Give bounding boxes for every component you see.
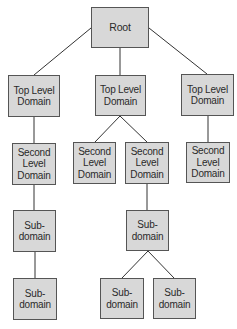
node-root: Root — [91, 7, 149, 48]
node-sub-left-2: Sub- domain — [13, 278, 57, 320]
node-sld-right: Second Level Domain — [186, 142, 230, 183]
node-sld-middle-right: Second Level Domain — [125, 142, 169, 184]
node-tld-left: Top Level Domain — [8, 75, 60, 117]
node-sub-middle: Sub- domain — [126, 210, 169, 251]
node-sub-middle-left: Sub- domain — [100, 278, 144, 319]
node-sub-left-1: Sub- domain — [13, 210, 56, 252]
dns-hierarchy-diagram: Root Top Level Domain Top Level Domain T… — [0, 0, 237, 329]
edge-sub-middle-sub-middle-left — [122, 251, 148, 278]
node-sld-middle-left: Second Level Domain — [73, 142, 116, 184]
node-tld-right: Top Level Domain — [181, 74, 234, 116]
node-sld-left: Second Level Domain — [12, 143, 56, 185]
node-sub-middle-right: Sub- domain — [153, 278, 196, 319]
edge-tld-middle-sld-middle-right — [120, 116, 147, 142]
edge-sub-middle-sub-middle-right — [148, 251, 174, 278]
edge-root-tld-left — [34, 28, 91, 75]
edge-root-tld-right — [149, 28, 207, 74]
edge-tld-middle-sld-middle-left — [95, 116, 120, 142]
node-tld-middle: Top Level Domain — [95, 75, 146, 116]
